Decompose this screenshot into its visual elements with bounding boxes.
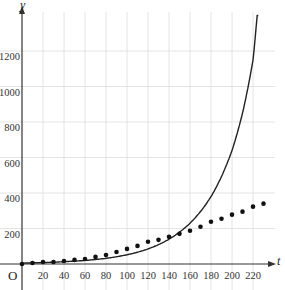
data-point — [93, 255, 98, 260]
data-point — [62, 259, 67, 264]
origin-label: O — [8, 268, 17, 283]
x-axis-label: t — [277, 254, 281, 268]
data-point — [156, 238, 161, 243]
data-point — [230, 212, 235, 217]
data-point — [240, 209, 245, 214]
tick-labels: 2040608010012014016018020022020040060080… — [0, 51, 261, 281]
y-tick-label: 400 — [4, 193, 20, 204]
y-tick-label: 1000 — [0, 87, 20, 98]
data-point — [177, 232, 182, 237]
y-tick-label: 800 — [4, 122, 20, 133]
data-point — [114, 250, 119, 255]
chart: 2040608010012014016018020022020040060080… — [0, 0, 285, 290]
data-point — [41, 260, 46, 265]
x-tick-label: 180 — [203, 270, 219, 281]
x-tick-label: 60 — [80, 270, 91, 281]
y-axis-label: y — [19, 0, 26, 12]
exponential-curve — [22, 16, 258, 264]
y-tick-label: 600 — [4, 158, 20, 169]
data-point — [83, 257, 88, 262]
data-point — [198, 224, 203, 229]
data-point — [209, 219, 214, 224]
grid-lines — [0, 12, 275, 290]
y-tick-label: 1200 — [0, 51, 20, 62]
data-point — [51, 260, 56, 265]
x-tick-label: 120 — [140, 270, 156, 281]
data-point — [251, 204, 256, 209]
data-point — [30, 261, 35, 266]
data-point — [125, 247, 130, 252]
data-point — [167, 235, 172, 240]
data-point — [20, 262, 25, 267]
data-point — [146, 240, 151, 245]
x-tick-label: 200 — [224, 270, 240, 281]
data-point — [104, 253, 109, 258]
x-tick-label: 80 — [101, 270, 112, 281]
x-axis-arrow-icon — [268, 261, 276, 267]
data-point — [261, 201, 266, 206]
x-tick-label: 160 — [182, 270, 198, 281]
x-tick-label: 20 — [38, 270, 49, 281]
data-points — [20, 201, 266, 266]
data-point — [72, 258, 77, 263]
x-tick-label: 220 — [245, 270, 261, 281]
data-point — [188, 229, 193, 234]
data-point — [219, 216, 224, 221]
x-tick-label: 140 — [161, 270, 177, 281]
x-tick-label: 100 — [119, 270, 135, 281]
x-tick-label: 40 — [59, 270, 70, 281]
data-point — [135, 244, 140, 249]
y-tick-label: 200 — [4, 229, 20, 240]
